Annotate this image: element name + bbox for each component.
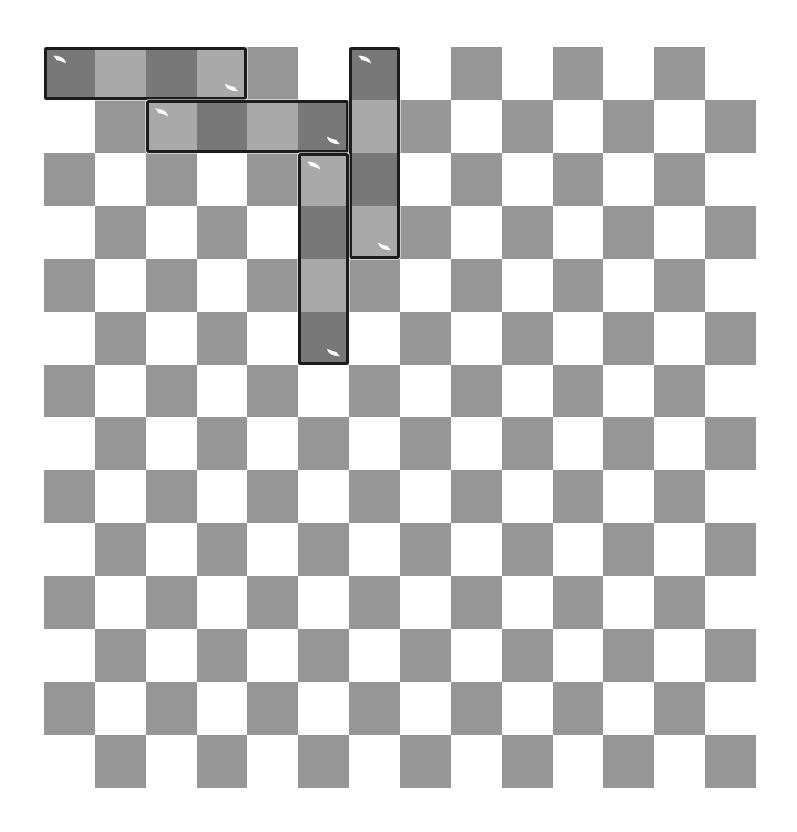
board-cell[interactable]	[298, 576, 349, 630]
board-cell[interactable]	[705, 735, 756, 788]
board-cell[interactable]	[400, 629, 451, 683]
board-cell[interactable]	[146, 735, 197, 788]
board-cell[interactable]	[603, 523, 654, 577]
board-cell[interactable]	[400, 470, 451, 524]
board-cell[interactable]	[603, 735, 654, 788]
board-cell[interactable]	[553, 629, 604, 683]
board-cell[interactable]	[349, 576, 400, 630]
board-cell[interactable]	[400, 206, 451, 260]
board-cell[interactable]	[146, 470, 197, 524]
board-cell[interactable]	[95, 312, 146, 366]
board-cell[interactable]	[502, 629, 553, 683]
board-cell[interactable]	[451, 365, 502, 419]
board-cell[interactable]	[247, 206, 298, 260]
board-cell[interactable]	[553, 470, 604, 524]
board-cell[interactable]	[603, 312, 654, 366]
board-cell[interactable]	[502, 682, 553, 736]
board-cell[interactable]	[247, 629, 298, 683]
board-cell[interactable]	[349, 365, 400, 419]
board-cell[interactable]	[705, 417, 756, 471]
board-cell[interactable]	[654, 417, 705, 471]
board-cell[interactable]	[400, 312, 451, 366]
board-cell[interactable]	[247, 365, 298, 419]
board-cell[interactable]	[247, 47, 298, 101]
board-cell[interactable]	[400, 523, 451, 577]
board-cell[interactable]	[705, 470, 756, 524]
board-cell[interactable]	[349, 682, 400, 736]
board-cell[interactable]	[44, 365, 95, 419]
board-cell[interactable]	[197, 576, 248, 630]
board-cell[interactable]	[400, 259, 451, 313]
board-cell[interactable]	[349, 312, 400, 366]
board-cell[interactable]	[603, 682, 654, 736]
board-cell[interactable]	[298, 735, 349, 788]
board-cell[interactable]	[146, 365, 197, 419]
board-cell[interactable]	[400, 47, 451, 101]
piece-4[interactable]	[298, 153, 349, 365]
board-cell[interactable]	[44, 312, 95, 366]
board-cell[interactable]	[553, 100, 604, 154]
board-cell[interactable]	[553, 206, 604, 260]
board-cell[interactable]	[44, 259, 95, 313]
board-cell[interactable]	[603, 100, 654, 154]
board-cell[interactable]	[298, 470, 349, 524]
board-cell[interactable]	[400, 682, 451, 736]
board-cell[interactable]	[298, 523, 349, 577]
board-cell[interactable]	[44, 523, 95, 577]
board-cell[interactable]	[247, 682, 298, 736]
board-cell[interactable]	[654, 153, 705, 207]
board-cell[interactable]	[349, 417, 400, 471]
board-cell[interactable]	[146, 682, 197, 736]
board-cell[interactable]	[247, 153, 298, 207]
checkerboard-grid[interactable]	[44, 47, 756, 788]
board-cell[interactable]	[654, 629, 705, 683]
board-cell[interactable]	[95, 523, 146, 577]
board-cell[interactable]	[400, 365, 451, 419]
board-cell[interactable]	[705, 259, 756, 313]
board-cell[interactable]	[705, 100, 756, 154]
board-cell[interactable]	[95, 365, 146, 419]
board-cell[interactable]	[247, 259, 298, 313]
board-cell[interactable]	[654, 47, 705, 101]
board-cell[interactable]	[654, 682, 705, 736]
board-cell[interactable]	[95, 629, 146, 683]
board-cell[interactable]	[146, 206, 197, 260]
board-cell[interactable]	[451, 417, 502, 471]
board-cell[interactable]	[705, 312, 756, 366]
board-cell[interactable]	[502, 417, 553, 471]
board-cell[interactable]	[451, 47, 502, 101]
board-cell[interactable]	[95, 470, 146, 524]
board-cell[interactable]	[705, 365, 756, 419]
board-cell[interactable]	[400, 100, 451, 154]
piece-3[interactable]	[349, 47, 400, 259]
board-cell[interactable]	[451, 100, 502, 154]
board-cell[interactable]	[502, 523, 553, 577]
board-cell[interactable]	[44, 417, 95, 471]
board-cell[interactable]	[451, 682, 502, 736]
board-cell[interactable]	[247, 576, 298, 630]
board-cell[interactable]	[349, 629, 400, 683]
board-cell[interactable]	[400, 735, 451, 788]
board-cell[interactable]	[603, 47, 654, 101]
board-cell[interactable]	[247, 417, 298, 471]
board-cell[interactable]	[298, 682, 349, 736]
board-cell[interactable]	[451, 153, 502, 207]
board-cell[interactable]	[146, 417, 197, 471]
board-cell[interactable]	[95, 682, 146, 736]
board-cell[interactable]	[553, 576, 604, 630]
board-cell[interactable]	[603, 259, 654, 313]
board-cell[interactable]	[553, 682, 604, 736]
board-cell[interactable]	[451, 312, 502, 366]
board-cell[interactable]	[298, 629, 349, 683]
board-cell[interactable]	[349, 735, 400, 788]
board-cell[interactable]	[603, 629, 654, 683]
board-cell[interactable]	[705, 153, 756, 207]
board-cell[interactable]	[553, 417, 604, 471]
board-cell[interactable]	[654, 470, 705, 524]
board-cell[interactable]	[95, 417, 146, 471]
board-cell[interactable]	[451, 470, 502, 524]
board-cell[interactable]	[146, 312, 197, 366]
board-cell[interactable]	[197, 312, 248, 366]
board-cell[interactable]	[603, 153, 654, 207]
board-cell[interactable]	[603, 206, 654, 260]
